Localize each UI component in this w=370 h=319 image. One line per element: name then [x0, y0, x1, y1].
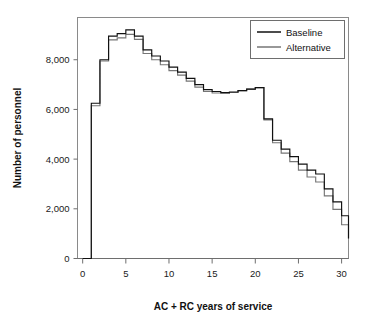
x-axis: 051015202530 [80, 259, 347, 279]
y-axis: 02,0004,0006,0008,000 [46, 54, 78, 264]
x-axis-tick-labels: 051015202530 [80, 268, 347, 279]
series-line-alternative [83, 34, 349, 258]
y-tick-label: 2,000 [46, 203, 70, 214]
legend-label-alternative: Alternative [286, 42, 331, 53]
clipped-figure-title [0, 0, 370, 1]
step-chart: 02,0004,0006,0008,000 051015202530 AC + … [0, 0, 370, 319]
y-tick-label: 4,000 [46, 154, 70, 165]
series-line-baseline [83, 30, 349, 259]
y-tick-label: 0 [64, 253, 69, 264]
x-tick-label: 5 [123, 268, 128, 279]
x-axis-title: AC + RC years of service [154, 301, 273, 312]
x-tick-label: 20 [250, 268, 261, 279]
x-axis-ticks [83, 259, 342, 264]
legend-label-baseline: Baseline [286, 27, 322, 38]
legend[interactable]: Baseline Alternative [251, 21, 345, 59]
x-tick-label: 10 [164, 268, 175, 279]
y-axis-title: Number of personnel [12, 88, 23, 189]
y-tick-label: 6,000 [46, 104, 70, 115]
chart-figure: 02,0004,0006,0008,000 051015202530 AC + … [0, 0, 370, 319]
x-tick-label: 0 [80, 268, 85, 279]
x-tick-label: 15 [207, 268, 218, 279]
x-tick-label: 30 [336, 268, 347, 279]
y-tick-label: 8,000 [46, 54, 70, 65]
y-axis-tick-labels: 02,0004,0006,0008,000 [46, 54, 70, 264]
x-tick-label: 25 [293, 268, 304, 279]
y-axis-ticks [74, 60, 78, 259]
